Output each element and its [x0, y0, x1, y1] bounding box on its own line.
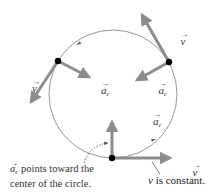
centripetal-note: →ac points toward the center of the circ… — [10, 163, 94, 190]
constant-speed-note: v is constant. — [148, 175, 205, 186]
v-constant-leader — [152, 162, 160, 174]
acceleration-label-bottom: →ac — [153, 116, 162, 129]
particle-dot-bottom — [109, 155, 115, 161]
particle-dot-upper-left — [55, 58, 61, 64]
centripetal-note-line2: center of the circle. — [10, 178, 94, 190]
velocity-label-upper-right: →v — [181, 36, 186, 47]
acceleration-label-upper-right: →ac — [158, 85, 167, 98]
centripetal-note-line1: →ac points toward the — [10, 163, 94, 178]
acceleration-arrow-upper-right — [137, 62, 169, 80]
particle-dot-upper-right — [166, 59, 172, 65]
velocity-label-upper-left: →v — [32, 83, 37, 94]
velocity-arrow-upper-right — [142, 15, 169, 62]
acceleration-label-upper-left: →ac — [101, 85, 110, 98]
acceleration-arrow-upper-left — [58, 61, 89, 77]
